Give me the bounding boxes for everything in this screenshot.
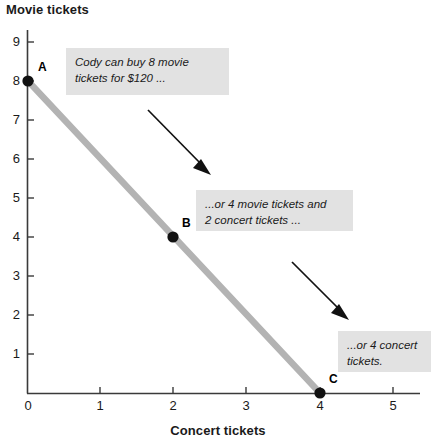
x-tick-label-3: 3 [236,399,256,413]
y-tick-label-3: 3 [4,269,20,283]
data-point-c [314,387,325,398]
x-tick-label-4: 4 [310,399,330,413]
data-point-a [22,75,33,86]
x-tick-label-0: 0 [18,399,38,413]
callout-second: ...or 4 movie tickets and 2 concert tick… [196,190,353,231]
x-axis-ticks [100,387,393,394]
y-tick-label-7: 7 [4,113,20,127]
callout-first: Cody can buy 8 movie tickets for $120 ..… [66,48,229,95]
y-tick-label-9: 9 [4,35,20,49]
x-tick-label-5: 5 [383,399,403,413]
annotation-arrow-second [292,262,349,320]
callout-third-line2: tickets. [347,353,422,369]
y-tick-label-2: 2 [4,308,20,322]
y-tick-label-6: 6 [4,152,20,166]
x-tick-label-2: 2 [163,399,183,413]
callout-first-line1: Cody can buy 8 movie [75,54,220,70]
callout-third: ...or 4 concert tickets. [338,331,431,372]
point-label-b: B [182,216,191,230]
callout-second-line1: ...or 4 movie tickets and [205,196,344,212]
y-tick-label-8: 8 [4,74,20,88]
callout-third-line1: ...or 4 concert [347,337,422,353]
x-tick-label-1: 1 [90,399,110,413]
x-axis-title: Concert tickets [0,423,436,438]
chart-canvas: Movie tickets [0,0,436,445]
y-tick-label-1: 1 [4,347,20,361]
callout-second-line2: 2 concert tickets ... [205,212,344,228]
callout-first-line2: tickets for $120 ... [75,70,220,86]
point-label-c: C [329,372,338,386]
annotation-arrow-first [148,110,211,175]
y-tick-label-4: 4 [4,230,20,244]
data-point-b [167,231,178,242]
point-label-a: A [38,60,47,74]
y-tick-label-5: 5 [4,191,20,205]
